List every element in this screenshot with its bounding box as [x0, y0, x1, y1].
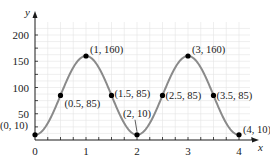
y-tick-label: 150: [13, 55, 30, 67]
data-point: [211, 93, 216, 98]
y-tick-label: 50: [18, 108, 30, 120]
y-axis-label: y: [24, 6, 30, 18]
x-tick-label: 4: [236, 145, 242, 157]
data-point-label: (4, 10): [243, 124, 270, 136]
data-point: [160, 93, 165, 98]
data-point-label: (1.5, 85): [115, 88, 151, 100]
data-point-label: (2.5, 85): [166, 90, 202, 102]
data-point-label: (3.5, 85): [217, 90, 253, 102]
data-point-label: (1, 160): [90, 44, 124, 56]
data-point: [58, 93, 63, 98]
x-tick-label: 0: [32, 145, 38, 157]
point-labels: (0, 10)(0.5, 85)(1, 160)(1.5, 85)(2, 10)…: [0, 44, 270, 136]
data-point-label: (0.5, 85): [65, 98, 101, 110]
data-point: [134, 132, 139, 137]
x-tick-label: 3: [185, 145, 191, 157]
data-point: [83, 53, 88, 58]
x-tick-label: 1: [83, 145, 89, 157]
data-point-label: (0, 10): [0, 120, 28, 132]
sinusoidal-chart: 0123450100150200 (0, 10)(0.5, 85)(1, 160…: [0, 0, 270, 159]
data-point: [32, 132, 37, 137]
data-point: [109, 93, 114, 98]
data-point: [185, 53, 190, 58]
x-tick-label: 2: [134, 145, 140, 157]
y-tick-label: 100: [13, 82, 30, 94]
y-axis-arrow-icon: [33, 11, 38, 18]
data-point-label: (3, 160): [192, 44, 226, 56]
y-tick-label: 200: [13, 29, 30, 41]
data-point: [236, 132, 241, 137]
data-point-label: (2, 10): [123, 108, 151, 120]
x-axis-label: x: [257, 141, 263, 153]
